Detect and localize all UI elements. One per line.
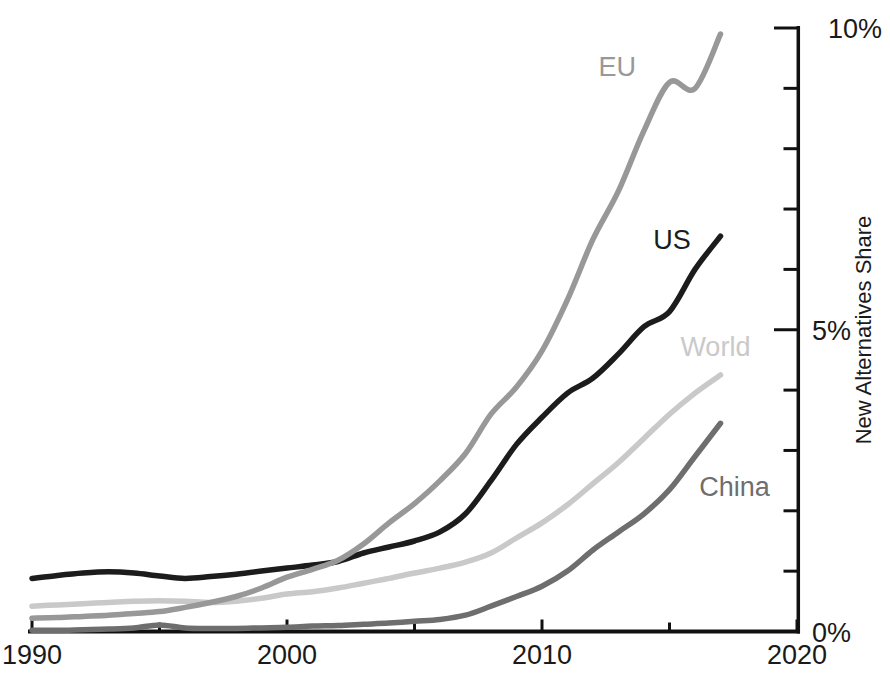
x-tick-label-2010: 2010 xyxy=(512,640,572,670)
x-tick-label-1990: 1990 xyxy=(2,640,62,670)
alternatives-share-chart: New Alternatives Share 19902000201020200… xyxy=(0,0,890,679)
series-label-us: US xyxy=(653,225,691,255)
plot-area xyxy=(28,26,800,634)
y-axis-title: New Alternatives Share xyxy=(851,216,876,445)
series-label-china: China xyxy=(699,472,771,502)
x-tick-label-2000: 2000 xyxy=(257,640,317,670)
series-label-world: World xyxy=(680,332,750,362)
series-label-eu: EU xyxy=(598,52,636,82)
y-tick-label-0: 0% xyxy=(812,618,851,648)
chart-canvas: New Alternatives Share 19902000201020200… xyxy=(0,0,890,679)
y-tick-label-5: 5% xyxy=(812,316,851,346)
series-line-us xyxy=(32,236,721,578)
y-tick-label-10: 10% xyxy=(828,14,882,44)
